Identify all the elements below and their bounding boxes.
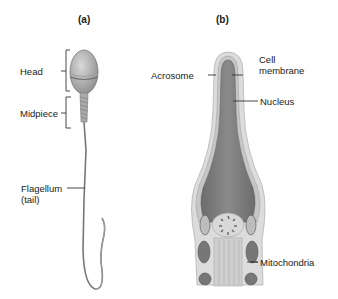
label-flagellum: Flagellum (tail) (21, 183, 62, 205)
label-acrosome: Acrosome (151, 70, 194, 81)
label-mitochondria: Mitochondria (260, 257, 314, 268)
sperm-head (70, 50, 98, 94)
label-head: Head (20, 66, 43, 77)
head-bracket (66, 50, 70, 91)
label-nucleus: Nucleus (260, 96, 294, 107)
panel-label-b: (b) (216, 14, 229, 25)
label-cell-membrane-line2: membrane (259, 65, 304, 76)
sperm-diagram (0, 0, 338, 299)
sperm-head-section-illustration (192, 52, 266, 286)
sperm-whole-illustration (61, 50, 105, 289)
label-cell-membrane: Cell membrane (259, 54, 304, 76)
panel-label-a: (a) (78, 14, 90, 25)
label-flagellum-line1: Flagellum (21, 183, 62, 194)
midpiece-bracket (66, 97, 71, 128)
label-cell-membrane-line1: Cell (259, 54, 304, 65)
label-flagellum-line2: (tail) (21, 194, 62, 205)
label-midpiece: Midpiece (20, 108, 58, 119)
